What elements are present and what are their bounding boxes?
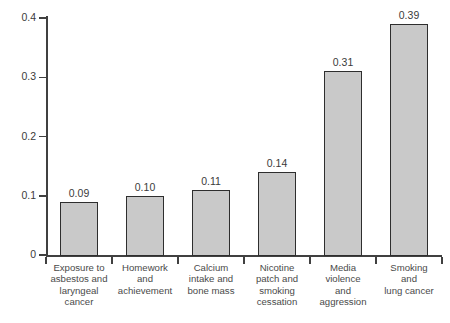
bar-value-label-4: 0.14 <box>247 157 307 169</box>
category-label-line: violence <box>310 273 376 284</box>
y-axis-tick-label: 0 <box>0 248 36 260</box>
category-label-line: cancer <box>46 296 112 307</box>
y-axis-tick-0 <box>39 254 46 256</box>
category-label-2: Homeworkandachievement <box>112 262 178 296</box>
category-label-3: Calciumintake andbone mass <box>178 262 244 296</box>
category-label-line: Homework <box>112 262 178 273</box>
category-label-6: Smokingandlung cancer <box>376 262 442 296</box>
category-label-line: and <box>376 273 442 284</box>
category-label-line: laryngeal <box>46 285 112 296</box>
category-label-line: achievement <box>112 285 178 296</box>
category-label-4: Nicotinepatch andsmokingcessation <box>244 262 310 308</box>
category-label-line: patch and <box>244 273 310 284</box>
bar-value-label-5: 0.31 <box>313 56 373 68</box>
y-axis-tick-0.3 <box>39 77 46 79</box>
category-label-5: Mediaviolenceandaggression <box>310 262 376 308</box>
y-axis-tick-0.1 <box>39 195 46 197</box>
y-axis-tick-label: 0.1 <box>0 189 36 201</box>
bar-value-label-3: 0.11 <box>181 175 241 187</box>
category-label-line: lung cancer <box>376 285 442 296</box>
category-label-line: Media <box>310 262 376 273</box>
category-label-line: asbestos and <box>46 273 112 284</box>
y-axis-tick-label: 0.2 <box>0 130 36 142</box>
bar-value-label-2: 0.10 <box>115 181 175 193</box>
bar-chart: 00.10.20.30.4 0.090.100.110.140.310.39 E… <box>0 0 450 323</box>
category-label-line: Calcium <box>178 262 244 273</box>
category-label-line: Smoking <box>376 262 442 273</box>
category-label-line: smoking <box>244 285 310 296</box>
category-label-line: Nicotine <box>244 262 310 273</box>
bar-2 <box>126 196 164 256</box>
bar-4 <box>258 172 296 256</box>
category-label-line: cessation <box>244 296 310 307</box>
y-axis-tick-label: 0.4 <box>0 11 36 23</box>
bar-6 <box>390 24 428 256</box>
y-axis-tick-label: 0.3 <box>0 70 36 82</box>
y-axis-tick-0.2 <box>39 136 46 138</box>
bar-5 <box>324 71 362 256</box>
category-label-1: Exposure toasbestos andlaryngealcancer <box>46 262 112 308</box>
category-label-line: Exposure to <box>46 262 112 273</box>
bar-value-label-1: 0.09 <box>49 187 109 199</box>
bar-3 <box>192 190 230 256</box>
y-axis-tick-0.4 <box>39 17 46 19</box>
y-axis-line <box>46 16 48 257</box>
category-label-line: and <box>310 285 376 296</box>
category-label-line: bone mass <box>178 285 244 296</box>
category-label-line: intake and <box>178 273 244 284</box>
bar-1 <box>60 202 98 256</box>
bar-value-label-6: 0.39 <box>379 9 439 21</box>
category-label-line: aggression <box>310 296 376 307</box>
category-label-line: and <box>112 273 178 284</box>
